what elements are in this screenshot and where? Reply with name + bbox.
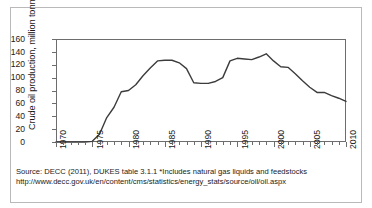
y-tick-label: 40 xyxy=(0,112,25,121)
x-tick-minor xyxy=(63,142,64,145)
crude-oil-production-chart: Crude oil production, million tonnes 020… xyxy=(11,8,363,204)
x-tick-minor xyxy=(136,142,137,145)
data-series-line xyxy=(56,39,346,142)
x-tick-label: 1985 xyxy=(168,130,177,149)
x-tick-label: 2000 xyxy=(277,130,286,149)
x-tick-minor xyxy=(143,142,144,145)
x-tick-minor xyxy=(114,142,115,145)
figure-frame: Crude oil production, million tonnes 020… xyxy=(10,7,362,203)
x-tick-label: 1990 xyxy=(204,130,213,149)
x-tick-minor xyxy=(107,142,108,145)
x-tick-minor xyxy=(324,142,325,145)
source-note: Source: DECC (2011), DUKES table 3.1.1 *… xyxy=(16,167,356,187)
x-tick-major xyxy=(165,142,166,147)
y-tick-label: 60 xyxy=(0,99,25,108)
y-tick-label: 140 xyxy=(0,48,25,57)
x-tick-minor xyxy=(288,142,289,145)
x-tick-minor xyxy=(158,142,159,145)
source-note-line-1: Source: DECC (2011), DUKES table 3.1.1 *… xyxy=(16,167,356,177)
x-tick-label: 1980 xyxy=(132,130,141,149)
x-tick-minor xyxy=(85,142,86,145)
x-tick-label: 1970 xyxy=(59,130,68,149)
y-tick-label: 160 xyxy=(0,35,25,44)
x-tick-label: 2005 xyxy=(313,130,322,149)
x-tick-major xyxy=(310,142,311,147)
x-tick-minor xyxy=(100,142,101,145)
x-tick-minor xyxy=(266,142,267,145)
x-tick-minor xyxy=(317,142,318,145)
x-tick-major xyxy=(92,142,93,147)
y-tick-label: 100 xyxy=(0,73,25,82)
x-tick-major xyxy=(274,142,275,147)
x-tick-minor xyxy=(281,142,282,145)
x-tick-minor xyxy=(332,142,333,145)
x-tick-minor xyxy=(245,142,246,145)
x-tick-minor xyxy=(71,142,72,145)
x-tick-major xyxy=(201,142,202,147)
x-tick-major xyxy=(237,142,238,147)
x-tick-minor xyxy=(259,142,260,145)
x-tick-minor xyxy=(230,142,231,145)
x-tick-major xyxy=(129,142,130,147)
source-note-url: http://www.decc.gov.uk/en/content/cms/st… xyxy=(16,177,356,187)
x-tick-major xyxy=(346,142,347,147)
x-tick-minor xyxy=(78,142,79,145)
y-tick-label: 80 xyxy=(0,86,25,95)
x-tick-minor xyxy=(303,142,304,145)
x-tick-minor xyxy=(339,142,340,145)
x-tick-label: 1995 xyxy=(241,130,250,149)
x-tick-label: 2010 xyxy=(349,130,358,149)
x-tick-minor xyxy=(187,142,188,145)
crude-oil-production-polyline xyxy=(56,54,346,142)
x-tick-minor xyxy=(172,142,173,145)
y-tick-label: 120 xyxy=(0,60,25,69)
x-tick-minor xyxy=(150,142,151,145)
y-tick-label: 0 xyxy=(0,138,25,147)
x-tick-major xyxy=(56,142,57,147)
x-tick-minor xyxy=(208,142,209,145)
x-tick-minor xyxy=(223,142,224,145)
y-tick-label: 20 xyxy=(0,125,25,134)
x-tick-minor xyxy=(216,142,217,145)
x-tick-minor xyxy=(121,142,122,145)
x-tick-minor xyxy=(295,142,296,145)
x-tick-minor xyxy=(194,142,195,145)
x-tick-label: 1975 xyxy=(96,130,105,149)
y-axis-title: Crude oil production, million tonnes xyxy=(27,0,37,130)
x-tick-minor xyxy=(252,142,253,145)
x-tick-minor xyxy=(179,142,180,145)
